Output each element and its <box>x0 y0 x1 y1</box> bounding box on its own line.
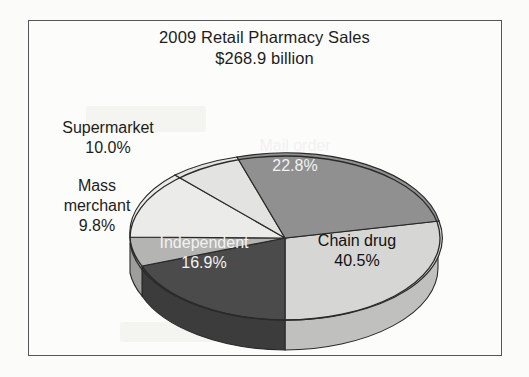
pie-label-mass-merchant-name-1: Mass <box>78 177 116 194</box>
pie-label-mass-merchant: Mass merchant 9.8% <box>38 176 156 236</box>
pie-label-chain-drug-percent: 40.5% <box>296 251 418 271</box>
pie-label-mail-order-percent: 22.8% <box>226 156 364 176</box>
pie-label-chain-drug-name: Chain drug <box>318 232 396 249</box>
pie-label-supermarket: Supermarket 10.0% <box>38 118 178 158</box>
pie-label-independent: Independent 16.9% <box>132 233 276 273</box>
pie-label-chain-drug: Chain drug 40.5% <box>296 231 418 271</box>
pie-label-mail-order: Mail order 22.8% <box>226 136 364 176</box>
pie-label-mail-order-name: Mail order <box>259 137 330 154</box>
pie-label-mass-merchant-name-2: merchant <box>38 196 156 216</box>
pie-label-supermarket-name: Supermarket <box>62 119 154 136</box>
pie-label-supermarket-percent: 10.0% <box>38 138 178 158</box>
pie-label-independent-name: Independent <box>160 234 249 251</box>
pie-label-independent-percent: 16.9% <box>132 253 276 273</box>
chart-page: 2009 Retail Pharmacy Sales $268.9 billio… <box>0 0 529 377</box>
